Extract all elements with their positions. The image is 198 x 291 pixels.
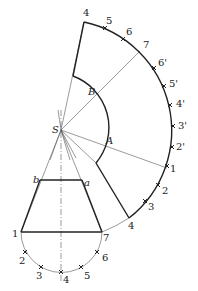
label-outer-6p: 6'	[158, 57, 167, 68]
label-outer-4-top: 4	[83, 7, 89, 18]
label-base-2: 2	[19, 255, 25, 266]
label-apex-s: S	[52, 124, 59, 135]
ray-s-short-3	[61, 130, 76, 158]
label-outer-2p: 2'	[176, 141, 185, 152]
label-base-1: 1	[12, 228, 18, 239]
label-outer-1: 1	[170, 163, 176, 174]
outer-arc	[84, 22, 172, 218]
labels: S A B b a 1 2 3 4 5 6 7 1 2 3 4 2' 3' 4'…	[12, 7, 187, 285]
label-inner-a: A	[105, 135, 113, 146]
label-outer-5-top: 5	[106, 15, 112, 26]
label-base-5: 5	[84, 270, 90, 281]
mark-base-6	[95, 250, 99, 254]
label-top-a: a	[84, 177, 90, 188]
label-base-4: 4	[63, 274, 69, 285]
frustum-left-edge	[21, 180, 40, 232]
label-top-b: b	[33, 174, 39, 185]
base-half-circle	[21, 232, 102, 273]
label-outer-7: 7	[143, 39, 149, 50]
label-outer-6-top: 6	[126, 26, 132, 37]
label-base-7: 7	[103, 232, 109, 243]
arc-link	[102, 218, 129, 232]
ray-s-to-7	[61, 51, 140, 130]
label-base-6: 6	[102, 252, 108, 263]
ray-s-to-1	[61, 130, 167, 168]
sector-edge-bottom	[96, 163, 129, 218]
label-inner-b: B	[87, 86, 95, 97]
sector-edge-top	[73, 22, 84, 76]
label-outer-3: 3	[148, 201, 154, 212]
label-base-3: 3	[36, 270, 42, 281]
cone-development-diagram: S A B b a 1 2 3 4 5 6 7 1 2 3 4 2' 3' 4'…	[0, 0, 198, 291]
label-outer-4-bottom: 4	[128, 220, 134, 231]
label-outer-3p: 3'	[178, 120, 187, 131]
label-outer-4p: 4'	[176, 98, 185, 109]
frustum-front-view	[21, 180, 102, 273]
label-outer-5p: 5'	[169, 78, 178, 89]
label-outer-2: 2	[162, 185, 168, 196]
mark-base-3	[39, 265, 43, 269]
